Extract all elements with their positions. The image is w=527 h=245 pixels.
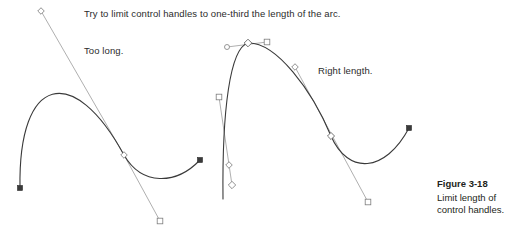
- handle-marker-left-upper[interactable]: [216, 94, 222, 100]
- figure-caption: Figure 3-18 Limit length of control hand…: [437, 178, 523, 217]
- instruction-text: Try to limit control handles to one-thir…: [84, 8, 341, 20]
- anchor-end-marker[interactable]: [407, 126, 412, 131]
- right-length-curve: [223, 43, 409, 199]
- anchor-end-marker[interactable]: [198, 158, 203, 163]
- figure-container: Try to limit control handles to one-thir…: [0, 0, 527, 245]
- too-long-example: [18, 8, 203, 224]
- caption-title: Figure 3-18: [437, 178, 523, 191]
- handle-marker-upper[interactable]: [38, 8, 45, 15]
- handle-line-lower: [124, 155, 160, 221]
- right-length-label: Right length.: [318, 65, 373, 77]
- handle-marker-top-left[interactable]: [225, 45, 230, 50]
- too-long-handle-lines: [41, 11, 160, 221]
- anchor-start-marker[interactable]: [18, 186, 23, 191]
- anchor-middle-marker[interactable]: [121, 152, 128, 159]
- too-long-curve: [20, 93, 200, 188]
- caption-line-2: control handles.: [437, 204, 523, 217]
- handle-marker-left-mid[interactable]: [226, 162, 233, 169]
- handle-marker-left-lower[interactable]: [228, 181, 235, 188]
- handle-marker-top-right[interactable]: [264, 39, 270, 45]
- too-long-label: Too long.: [84, 45, 123, 57]
- handle-marker-descend[interactable]: [292, 64, 299, 71]
- right-length-example: [216, 39, 411, 205]
- handle-marker-lower-right[interactable]: [365, 199, 371, 205]
- caption-line-1: Limit length of: [437, 192, 523, 205]
- anchor-top-marker[interactable]: [244, 39, 252, 47]
- handle-marker-lower[interactable]: [157, 218, 163, 224]
